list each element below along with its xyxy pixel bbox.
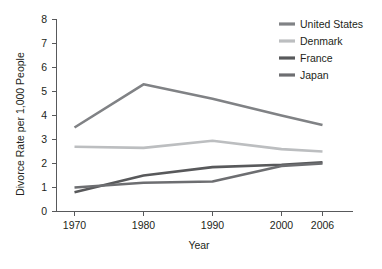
series-line-japan [75,164,323,188]
x-tick-label: 2000 [270,219,294,231]
x-tick-label: 1980 [132,219,156,231]
y-tick-label: 0 [41,205,47,217]
legend-item-japan[interactable]: Japan [279,69,329,81]
y-tick-label: 3 [41,133,47,145]
y-tick-label: 8 [41,13,47,25]
y-tick-label: 4 [41,109,47,121]
x-tick-label: 2006 [311,219,335,231]
series-line-denmark [75,141,323,152]
legend-item-united-states[interactable]: United States [279,18,363,30]
series-group [75,84,323,192]
y-tick-marks [52,20,57,212]
legend-item-denmark[interactable]: Denmark [279,35,343,47]
x-tick-label: 1970 [63,219,87,231]
divorce-rate-line-chart: Divorce Rate per 1,000 People 8 7 6 5 4 … [0,0,382,269]
y-tick-label: 5 [41,85,47,97]
legend-label: Japan [300,69,329,81]
series-line-united-states [75,84,323,127]
x-tick-label: 1990 [201,219,225,231]
x-axis-title: Year [188,239,210,251]
legend-label: United States [300,18,363,30]
y-tick-label: 2 [41,157,47,169]
legend-label: France [300,52,333,64]
y-tick-labels: 8 7 6 5 4 3 2 1 0 [41,13,47,217]
y-tick-label: 7 [41,37,47,49]
y-tick-label: 6 [41,61,47,73]
legend: United States Denmark France Japan [279,18,363,81]
x-tick-labels: 1970 1980 1990 2000 2006 [63,219,335,231]
y-tick-label: 1 [41,181,47,193]
legend-item-france[interactable]: France [279,52,333,64]
chart-canvas: Divorce Rate per 1,000 People 8 7 6 5 4 … [0,0,382,269]
y-axis-title: Divorce Rate per 1,000 People [14,52,26,196]
legend-label: Denmark [300,35,343,47]
x-tick-marks [75,212,323,217]
